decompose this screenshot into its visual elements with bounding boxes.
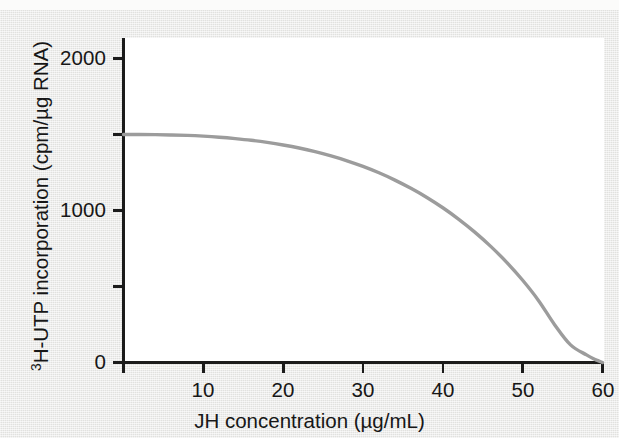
x-tick-label-10: 10 (191, 378, 214, 402)
x-tick-label-50: 50 (511, 378, 534, 402)
x-tick-label-30: 30 (351, 378, 374, 402)
data-curve-3h-utp (124, 134, 603, 362)
y-axis-title-superscript: 3 (28, 363, 44, 371)
x-tick-label-60: 60 (591, 378, 614, 402)
y-axis-title: 3H-UTP incorporation (cpm/µg RNA) (29, 11, 53, 401)
y-axis-title-text: H-UTP incorporation (cpm/µg RNA) (29, 41, 52, 363)
x-axis-title: JH concentration (µg/mL) (0, 409, 619, 433)
figure-container: 2000 1000 0 10 20 30 40 50 60 JH concent… (0, 0, 619, 438)
x-tick-label-40: 40 (431, 378, 454, 402)
x-tick-label-20: 20 (271, 378, 294, 402)
